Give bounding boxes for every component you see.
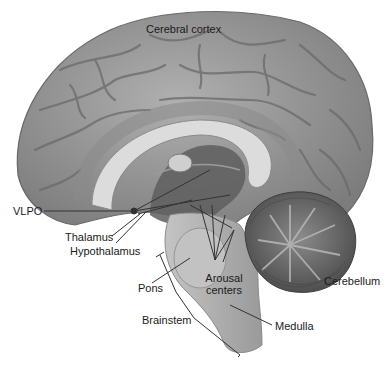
hypothalamus-leader <box>116 212 146 243</box>
label-thalamus: Thalamus <box>65 231 113 243</box>
label-pons: Pons <box>138 282 163 294</box>
label-cerebellum: Cerebellum <box>324 275 380 287</box>
label-arousal-centers-line1: Arousal <box>196 272 252 284</box>
label-brainstem: Brainstem <box>142 314 192 326</box>
label-arousal-centers-line2: centers <box>196 284 252 296</box>
label-cerebral-cortex: Cerebral cortex <box>146 23 221 35</box>
label-hypothalamus: Hypothalamus <box>70 245 140 257</box>
brain-illustration <box>0 0 388 366</box>
label-arousal-centers: Arousal centers <box>196 272 252 296</box>
label-vlpo: VLPO <box>13 205 42 217</box>
label-medulla: Medulla <box>275 320 314 332</box>
thalamus-shape <box>168 154 192 172</box>
brain-diagram: Cerebral cortex VLPO Thalamus Hypothalam… <box>0 0 388 366</box>
